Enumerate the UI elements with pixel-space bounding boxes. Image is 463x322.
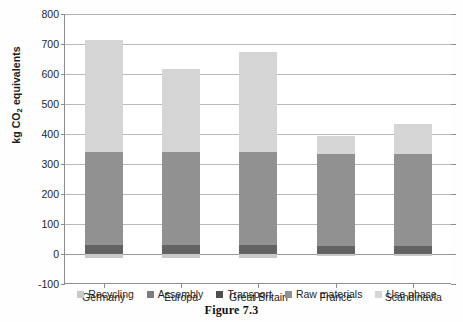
y-axis-tick-label: 100 (41, 218, 59, 230)
bar-segment-negative[interactable] (317, 254, 355, 256)
y-axis-tick-mark-right (451, 284, 456, 285)
bar-segment-negative[interactable] (239, 254, 277, 258)
bar-group[interactable]: Scandinavia (375, 14, 452, 283)
legend-swatch-icon (77, 291, 84, 298)
y-axis-tick-label: 800 (41, 8, 59, 20)
bar-segment[interactable] (317, 154, 355, 246)
legend-item[interactable]: Assembly (147, 288, 204, 300)
bars-layer: GermanyEuropaGreat BritainFranceScandina… (65, 14, 451, 283)
legend-swatch-icon (216, 291, 223, 298)
legend-item[interactable]: Use phase (375, 288, 436, 300)
legend-item[interactable]: Raw materials (285, 288, 363, 300)
bar-stack[interactable] (162, 14, 200, 283)
bar-segment[interactable] (162, 69, 200, 152)
legend-label: Use phase (386, 288, 436, 300)
bar-segment[interactable] (394, 246, 432, 254)
legend-label: Assembly (158, 288, 204, 300)
legend-label: Recycling (88, 288, 134, 300)
bar-segment-negative[interactable] (162, 254, 200, 258)
figure-caption: Figure 7.3 (0, 303, 463, 318)
y-axis-tick-label: 0 (53, 248, 59, 260)
y-axis-tick-label: 200 (41, 188, 59, 200)
y-axis-tick-label: 400 (41, 128, 59, 140)
bar-segment[interactable] (317, 136, 355, 155)
bar-segment[interactable] (85, 245, 123, 254)
y-axis-tick-label: 600 (41, 68, 59, 80)
y-axis-title-post: equivalents (10, 46, 22, 108)
legend-swatch-icon (147, 291, 154, 298)
bar-segment[interactable] (317, 246, 355, 254)
y-axis-tick-label: -100 (38, 278, 59, 290)
bar-segment-negative[interactable] (394, 254, 432, 256)
bar-group[interactable]: Europa (142, 14, 219, 283)
bar-segment[interactable] (85, 152, 123, 245)
y-axis-title-subscript: 2 (15, 108, 24, 112)
y-axis-title-pre: kg CO (10, 112, 22, 143)
bar-segment[interactable] (239, 52, 277, 152)
bar-stack[interactable] (239, 14, 277, 283)
bar-segment[interactable] (85, 40, 123, 152)
bar-group[interactable]: Germany (65, 14, 142, 283)
legend-item[interactable]: Transport (216, 288, 272, 300)
bar-segment[interactable] (239, 245, 277, 254)
bar-stack[interactable] (85, 14, 123, 283)
legend-swatch-icon (375, 291, 382, 298)
legend-item[interactable]: Recycling (77, 288, 134, 300)
bar-segment[interactable] (162, 152, 200, 245)
y-axis-tick-mark (61, 284, 65, 285)
bar-stack[interactable] (394, 14, 432, 283)
bar-segment[interactable] (239, 152, 277, 245)
bar-group[interactable]: Great Britain (220, 14, 297, 283)
bar-stack[interactable] (317, 14, 355, 283)
legend-label: Raw materials (296, 288, 363, 300)
bar-segment-negative[interactable] (85, 254, 123, 258)
y-axis-tick-label: 300 (41, 158, 59, 170)
y-axis-tick-label: 700 (41, 38, 59, 50)
legend-label: Transport (227, 288, 272, 300)
y-axis-title: kg CO2 equivalents (10, 30, 28, 160)
figure-container: kg CO2 equivalents 800700600500400300200… (0, 0, 463, 322)
plot-area: 8007006005004003002001000-100 GermanyEur… (64, 14, 451, 284)
y-axis-tick-label: 500 (41, 98, 59, 110)
bar-segment[interactable] (162, 245, 200, 254)
bar-segment[interactable] (394, 154, 432, 246)
bar-segment[interactable] (394, 124, 432, 155)
legend-swatch-icon (285, 291, 292, 298)
chart-legend: RecyclingAssemblyTransportRaw materialsU… (64, 288, 450, 300)
bar-group[interactable]: France (297, 14, 374, 283)
